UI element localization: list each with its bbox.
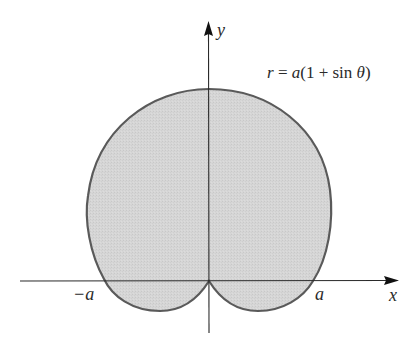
x-axis [20,281,392,282]
cardioid-diagram: y x −a a r = a(1 + sin θ) [0,0,414,346]
x-axis-arrow-icon [384,276,399,285]
y-axis [209,30,210,333]
pos-a-label: a [315,284,324,304]
y-axis-arrow-icon [204,21,213,36]
neg-a-label: −a [73,284,94,304]
x-axis-label: x [388,285,397,305]
equation-label: r = a(1 + sin θ) [267,63,371,82]
y-axis-label: y [215,20,225,40]
